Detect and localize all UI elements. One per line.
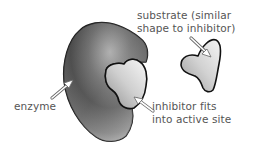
enzyme-label: enzyme [14,100,56,113]
enzyme-label-line1: enzyme [14,100,56,113]
inhibitor-label-line2: into active site [152,113,231,126]
substrate-label: substrate (similar shape to inhibitor) [137,9,235,34]
inhibitor-label: inhibitor fits into active site [152,100,231,125]
substrate-label-line1: substrate (similar [137,9,235,22]
inhibitor-label-line1: inhibitor fits [152,100,231,113]
substrate-label-line2: shape to inhibitor) [137,22,235,35]
